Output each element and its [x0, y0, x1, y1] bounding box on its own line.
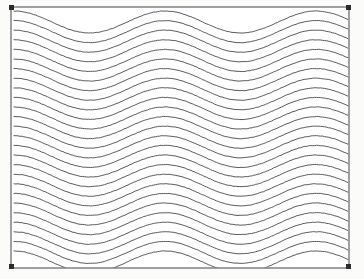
handle-top-right[interactable]: [346, 5, 351, 10]
handle-bottom-right[interactable]: [346, 264, 351, 269]
figure-canvas: [0, 0, 364, 279]
wave-figure: [0, 0, 364, 279]
handle-top-left[interactable]: [9, 5, 14, 10]
handle-bottom-left[interactable]: [9, 264, 14, 269]
